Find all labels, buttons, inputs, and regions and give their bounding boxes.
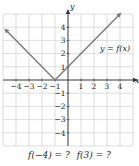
axes (3, 9, 138, 146)
svg-text:−3: −3 (23, 82, 34, 91)
svg-text:−2: −2 (54, 102, 65, 111)
svg-text:−3: −3 (54, 115, 65, 124)
svg-text:2: 2 (61, 49, 66, 58)
y-axis-label: y (69, 2, 75, 11)
svg-text:−1: −1 (54, 89, 65, 98)
svg-text:−2: −2 (36, 82, 47, 91)
svg-text:4: 4 (61, 23, 66, 32)
function-label: y = f(x) (99, 44, 130, 53)
svg-text:1: 1 (79, 82, 84, 91)
svg-text:4: 4 (118, 82, 123, 91)
svg-text:−4: −4 (54, 129, 65, 138)
svg-text:−4: −4 (10, 82, 21, 91)
x-axis-label: x (135, 76, 139, 85)
svg-text:2: 2 (92, 82, 97, 91)
question-part-1: f(−4) = ? (28, 150, 70, 160)
svg-text:3: 3 (61, 36, 66, 45)
question-text: f(−4) = ? f(3) = ? (0, 150, 139, 160)
question-part-2: f(3) = ? (77, 150, 111, 160)
function-graph: −4−3−2−11234−4−3−2−11234 y = f(x) y x (0, 0, 139, 150)
svg-text:3: 3 (105, 82, 110, 91)
